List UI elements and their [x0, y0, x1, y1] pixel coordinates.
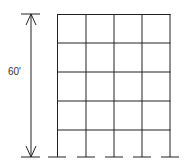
dimension-line: [21, 14, 40, 157]
columns: [58, 14, 171, 157]
frame-diagram: [0, 0, 185, 164]
height-dimension-label: 60': [8, 66, 21, 77]
